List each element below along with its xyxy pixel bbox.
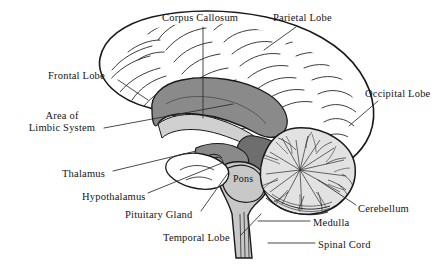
label-area-of-limbic-system-line2: Limbic System [23,122,101,134]
label-parietal-lobe: Parietal Lobe [273,12,332,24]
label-hypothalamus: Hypothalamus [82,191,146,203]
label-frontal-lobe: Frontal Lobe [48,70,105,82]
label-occipital-lobe: Occipital Lobe [365,88,430,100]
label-area-of-limbic-system-line1: Area of [23,110,101,122]
brain-diagram-figure: Corpus Callosum Parietal Lobe Frontal Lo… [0,0,441,267]
label-cerebellum: Cerebellum [358,203,409,215]
label-medulla: Medulla [313,217,349,229]
label-pituitary-gland: Pituitary Gland [125,209,192,221]
label-temporal-lobe: Temporal Lobe [163,232,230,244]
brain-illustration [0,0,441,267]
label-area-of-limbic-system: Area of Limbic System [23,110,101,133]
label-spinal-cord: Spinal Cord [318,239,371,251]
label-corpus-callosum: Corpus Callosum [162,12,238,24]
label-thalamus: Thalamus [62,168,105,180]
label-pons: Pons [233,173,253,185]
